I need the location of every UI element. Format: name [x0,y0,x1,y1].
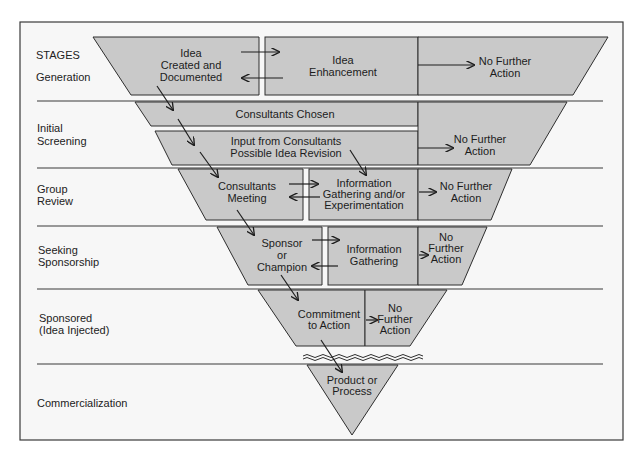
svg-text:Consultants Chosen: Consultants Chosen [235,108,334,120]
svg-text:Product orProcess: Product orProcess [327,374,378,397]
stages-heading: STAGES [36,49,80,61]
stage-label-commercialization: Commercialization [37,397,127,409]
svg-text:Input from ConsultantsPossible: Input from ConsultantsPossible Idea Revi… [230,135,341,159]
row-group-review: ConsultantsMeeting InformationGathering … [178,169,512,220]
row-seeking-sponsorship: SponsororChampion InformationGathering N… [217,227,487,285]
row-generation: IdeaCreated andDocumented IdeaEnhancemen… [93,37,608,95]
row-initial-screening: Consultants Chosen Input from Consultant… [135,102,567,165]
idea-funnel-diagram: STAGES Generation InitialScreening Group… [0,0,644,471]
stage-label-generation: Generation [36,71,90,83]
svg-text:InformationGathering: InformationGathering [346,243,401,267]
